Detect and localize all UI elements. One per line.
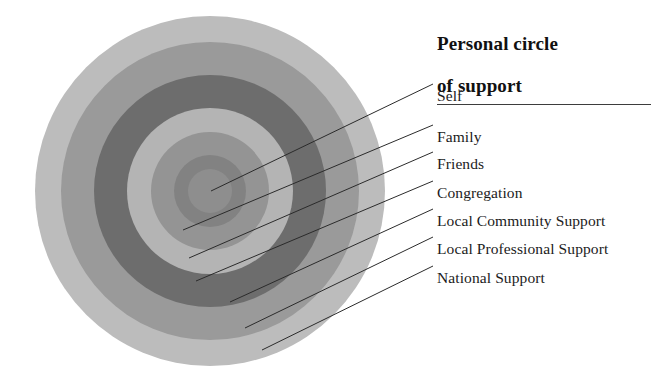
page-title-line-1: Personal circle <box>437 33 558 54</box>
legend-label-family: Family <box>437 129 482 145</box>
legend-label-friends: Friends <box>437 156 484 172</box>
legend-header: Personal circle of support <box>437 12 654 105</box>
legend-label-self: Self <box>437 88 462 104</box>
ring-self <box>188 169 232 213</box>
legend-label-local-community-support: Local Community Support <box>437 213 606 229</box>
legend-label-congregation: Congregation <box>437 185 523 201</box>
diagram-page: Personal circle of support SelfFamilyFri… <box>0 0 654 375</box>
title-divider <box>437 104 651 105</box>
legend-label-local-professional-support: Local Professional Support <box>437 241 608 257</box>
rings-group <box>35 16 385 366</box>
legend-label-national-support: National Support <box>437 270 545 286</box>
page-title: Personal circle of support <box>437 12 654 98</box>
